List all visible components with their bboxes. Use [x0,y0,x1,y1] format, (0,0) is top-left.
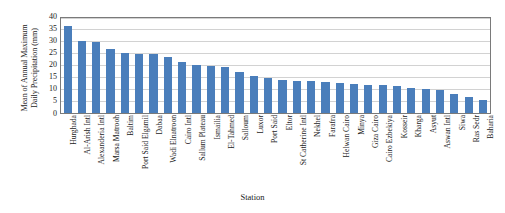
bar [307,81,315,112]
x-tick-slot: Minya [351,115,359,187]
bar [393,86,401,113]
precipitation-bar-chart: Mean of Annual Maximum Daily Precipitati… [0,0,505,213]
x-tick-label: Aswan Intl [441,115,449,149]
bar [149,54,157,112]
y-tick-label: 40 [49,13,57,21]
x-tick-label: Alexanderia Intl [95,115,103,165]
y-tick-label: 5 [53,97,57,105]
x-tick-label: Nekhel [311,115,319,137]
x-tick-slot: Cairo Intl [178,115,186,187]
bar [64,26,72,112]
x-tick-label: Baltim [124,115,132,136]
x-tick-label: Minya [355,115,363,135]
bar [264,78,272,112]
x-tick-label: Asyut [427,115,435,133]
bar [293,81,301,113]
bar [407,88,415,113]
x-tick-label: Ismailia [211,115,219,139]
x-tick-label: Port Said [268,115,276,143]
bar [92,42,100,112]
bar [250,76,258,112]
x-tick-label: Al-Arish Intl [81,115,89,154]
x-tick-slot: Asyut [423,115,431,187]
y-tick-label: 30 [49,37,57,45]
plot-area [60,17,491,114]
bar [436,90,444,113]
bar [135,54,143,113]
x-tick-slot: St Catherine Intl [293,115,301,187]
x-tick-label: Marsa Matrooh [110,115,118,162]
x-tick-slot: Kosseir [394,115,402,187]
bar [178,62,186,112]
bar [465,97,473,112]
bar [221,67,229,112]
x-tick-slot: Port Said Elgamil [135,115,143,187]
x-tick-slot: Wadi Elnatroon [163,115,171,187]
x-tick-slot: Baharia [480,115,488,187]
x-tick-slot: Kharga [408,115,416,187]
x-tick-slot: Farafra [322,115,330,187]
x-tick-slot: Sallum Plateau [192,115,200,187]
x-tick-label: Kosseir [398,115,406,138]
bar [235,72,243,112]
x-tick-slot: Cairo Ezbekiya [379,115,387,187]
x-tick-label: Luxor [254,115,262,134]
x-tick-label: Dabaa [153,115,161,134]
bar-series [61,18,490,113]
bar [364,85,372,113]
bar [207,66,215,113]
bar [192,65,200,113]
x-tick-label: Ras Sedr [470,115,478,142]
x-axis-tick-labels: HurghadaAl-Arish IntlAlexanderia IntlMar… [60,115,491,187]
x-tick-slot: El-Tahmed [221,115,229,187]
x-tick-slot: Hurghada [63,115,71,187]
y-tick-label: 20 [49,61,57,69]
x-tick-slot: Dabaa [149,115,157,187]
x-tick-label: Salloum [239,115,247,140]
bar [350,84,358,112]
x-tick-slot: Port Said [264,115,272,187]
y-tick-label: 10 [49,85,57,93]
bar [164,57,172,112]
x-tick-slot: Marsa Matrooh [106,115,114,187]
x-tick-slot: Giza Cairo [365,115,373,187]
x-tick-slot: Ras Sedr [466,115,474,187]
x-tick-slot: Al-Arish Intl [77,115,85,187]
x-tick-label: Baharia [484,115,492,139]
x-tick-label: Sallum Plateau [196,115,204,161]
bar [78,41,86,113]
x-tick-label: Giza Cairo [369,115,377,148]
x-tick-slot: Ismailia [207,115,215,187]
y-tick-label: 0 [53,110,57,118]
x-tick-slot: Alexanderia Intl [91,115,99,187]
y-tick-label: 35 [49,25,57,33]
y-axis-tick-labels: 4035302520151050 [40,13,57,117]
bar [379,85,387,112]
x-tick-label: Port Said Elgamil [139,115,147,169]
bar [106,49,114,113]
y-axis-title-line-2: Daily Precipitation (mm) [30,0,40,143]
x-tick-label: El-Tahmed [225,115,233,149]
x-tick-slot: Siwa [451,115,459,187]
x-tick-label: Cairo Ezbekiya [383,115,391,162]
x-tick-label: Wadi Elnatroon [167,115,175,163]
y-axis-title-line-1: Mean of Annual Maximum [20,0,30,143]
bar [422,89,430,112]
x-tick-slot: Baltim [120,115,128,187]
x-tick-label: Hurghada [67,115,75,145]
bar [450,94,458,112]
y-tick-label: 25 [49,49,57,57]
x-axis-title: Station [0,192,505,202]
x-tick-slot: Salloum [235,115,243,187]
x-tick-label: St Catherine Intl [297,115,305,165]
x-tick-slot: Aswan Intl [437,115,445,187]
x-tick-slot: Luxor [250,115,258,187]
x-tick-label: Farafra [326,115,334,137]
bar [121,53,129,113]
x-tick-label: Helwan Cairo [340,115,348,157]
x-tick-label: Siwa [456,115,464,130]
bar [321,82,329,112]
bar [278,80,286,113]
bar [336,83,344,112]
x-tick-label: Cairo Intl [182,115,190,144]
